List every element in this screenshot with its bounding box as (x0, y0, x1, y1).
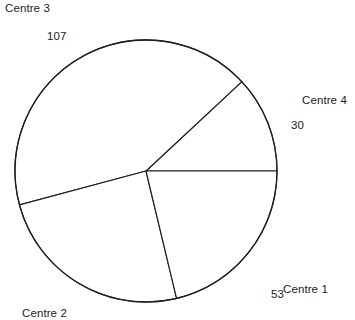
slice-label-centre-1: Centre 1 (283, 283, 328, 296)
pie-slices-group (15, 40, 277, 302)
slice-value-centre-4: 30 (291, 119, 304, 132)
slice-label-centre-4: Centre 4 (302, 94, 347, 107)
slice-label-centre-3: Centre 3 (5, 2, 50, 15)
slice-value-centre-3: 107 (47, 30, 67, 43)
slice-value-centre-1: 53 (271, 288, 284, 301)
slice-label-centre-2: Centre 2 (22, 307, 67, 320)
